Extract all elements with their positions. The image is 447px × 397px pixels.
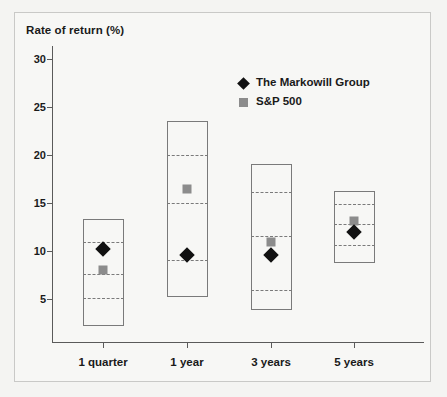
quartile-line-3-years-upper	[251, 192, 292, 193]
x-tick-1-year	[187, 342, 188, 348]
legend-diamond-icon	[237, 77, 250, 90]
legend-label-markowill: The Markowill Group	[256, 76, 370, 88]
x-tick-5-years	[354, 342, 355, 348]
quartile-line-1-year-median	[167, 203, 208, 204]
x-tick-label-3-years: 3 years	[251, 356, 291, 368]
quartile-line-1-quarter-lower	[83, 298, 124, 299]
y-tick-label-15: 15	[12, 197, 46, 209]
x-axis-line	[52, 342, 424, 343]
y-tick-5	[47, 299, 52, 300]
y-tick-label-25: 25	[12, 101, 46, 113]
quartile-line-5-years-upper	[334, 204, 375, 205]
x-tick-1-quarter	[103, 342, 104, 348]
y-tick-label-5: 5	[12, 293, 46, 305]
marker-sp500-3-years	[267, 238, 276, 247]
y-tick-label-20: 20	[12, 149, 46, 161]
legend-square-icon	[239, 98, 248, 107]
y-tick-label-30: 30	[12, 53, 46, 65]
y-tick-30	[47, 59, 52, 60]
quartile-line-5-years-lower	[334, 245, 375, 246]
legend-label-sp500: S&P 500	[256, 95, 302, 107]
y-tick-20	[47, 155, 52, 156]
range-box-1-year	[167, 121, 208, 297]
chart-figure: Rate of return (%) 30 25 20 15 10 5	[0, 0, 447, 397]
x-tick-3-years	[271, 342, 272, 348]
chart-plot-area: Rate of return (%) 30 25 20 15 10 5	[0, 0, 447, 397]
x-tick-label-1-quarter: 1 quarter	[78, 356, 127, 368]
quartile-line-3-years-lower	[251, 290, 292, 291]
y-tick-25	[47, 107, 52, 108]
y-axis-line	[52, 46, 53, 342]
y-tick-label-10: 10	[12, 245, 46, 257]
x-tick-label-1-year: 1 year	[170, 356, 203, 368]
y-axis-title: Rate of return (%)	[26, 24, 124, 36]
quartile-line-1-year-upper	[167, 155, 208, 156]
y-tick-10	[47, 251, 52, 252]
marker-sp500-1-year	[183, 185, 192, 194]
marker-sp500-1-quarter	[99, 266, 108, 275]
x-tick-label-5-years: 5 years	[334, 356, 374, 368]
y-tick-15	[47, 203, 52, 204]
